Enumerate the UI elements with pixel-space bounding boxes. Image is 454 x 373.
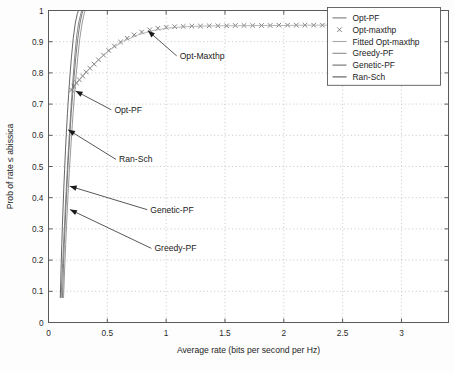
ytick-label: 0.5: [32, 162, 44, 172]
ytick-label: 0.1: [32, 286, 44, 296]
legend-entry-label: Ran-Sch: [353, 72, 386, 82]
ytick-label: 0: [39, 318, 44, 328]
xtick-label: 1: [164, 328, 169, 338]
ytick-label: 1: [39, 6, 44, 16]
ytick-label: 0.4: [32, 193, 44, 203]
chart-figure: 00.511.522.5300.10.20.30.40.50.60.70.80.…: [0, 0, 454, 373]
cdf-plot: 00.511.522.5300.10.20.30.40.50.60.70.80.…: [0, 0, 454, 373]
annotation-label: Opt-Maxthp: [180, 51, 225, 61]
xtick-label: 2.5: [337, 328, 349, 338]
ytick-label: 0.7: [32, 99, 44, 109]
xtick-label: 2: [281, 328, 286, 338]
ytick-label: 0.2: [32, 255, 44, 265]
legend-entry-label: Fitted Opt-maxthp: [353, 37, 420, 47]
ytick-label: 0.6: [32, 130, 44, 140]
xtick-label: 3: [399, 328, 404, 338]
legend-entry-label: Genetic-PF: [353, 60, 395, 70]
annotation-label: Greedy-PF: [154, 243, 196, 253]
ytick-label: 0.8: [32, 68, 44, 78]
xtick-label: 1.5: [219, 328, 231, 338]
xtick-label: 0: [46, 328, 51, 338]
legend-entry-label: Opt-maxthp: [353, 25, 397, 35]
y-axis-title: Prob of rate ≤ abissica: [5, 124, 15, 210]
x-axis-title: Average rate (bits per second per Hz): [177, 345, 320, 355]
legend-entry-label: Opt-PF: [353, 13, 380, 23]
annotation-label: Ran-Sch: [119, 154, 153, 164]
annotation-label: Opt-PF: [114, 105, 142, 115]
annotation-label: Genetic-PF: [150, 205, 193, 215]
legend-entry-label: Greedy-PF: [353, 48, 394, 58]
ytick-label: 0.9: [32, 37, 44, 47]
xtick-label: 0.5: [102, 328, 114, 338]
ytick-label: 0.3: [32, 224, 44, 234]
